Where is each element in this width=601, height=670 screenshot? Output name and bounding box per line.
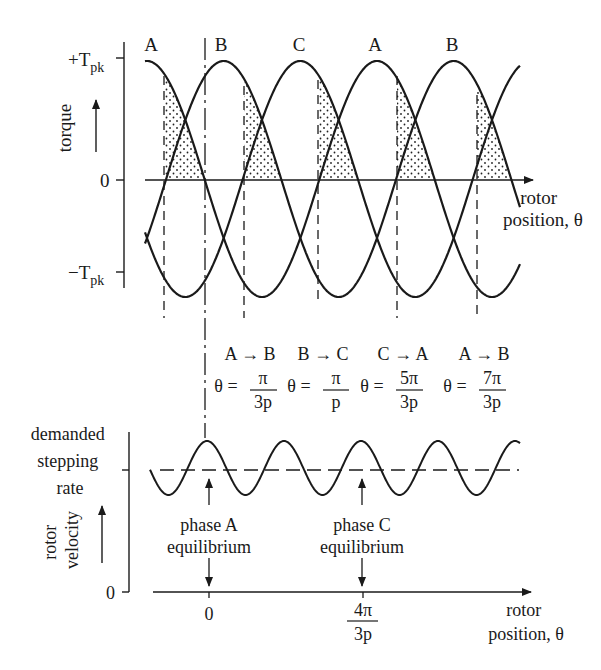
svg-text:θ =: θ = [443, 376, 466, 396]
rotor-position-label-bottom: rotor position, θ [488, 600, 564, 644]
svg-text:π: π [331, 368, 340, 388]
transition-labels: A → B B → C C → A A → B θ = π 3p θ = π p… [214, 344, 509, 412]
phase-label-c: C [293, 34, 306, 55]
stepper-torque-velocity-diagram: +Tpk 0 −Tpk torque rotor position, θ A B… [0, 0, 601, 670]
svg-text:3p: 3p [254, 392, 272, 412]
y-tick-plus-tpk: +Tpk [68, 49, 104, 75]
x-tick-zero: 0 [205, 604, 214, 624]
svg-text:θ =: θ = [287, 376, 310, 396]
theta-value-3: θ = 5π 3p [360, 368, 423, 412]
velocity-curve [150, 441, 520, 495]
rotor-velocity-label: rotor velocity [40, 511, 82, 569]
svg-text:equilibrium: equilibrium [320, 537, 404, 557]
svg-text:3p: 3p [400, 392, 418, 412]
phase-label-a2: A [368, 34, 382, 55]
phase-label-a: A [144, 34, 158, 55]
svg-text:π: π [258, 368, 267, 388]
svg-text:3p: 3p [354, 624, 372, 644]
theta-value-4: θ = 7π 3p [443, 368, 506, 412]
phase-c-equilibrium-annotation: phase C equilibrium [320, 479, 404, 586]
theta-value-1: θ = π 3p [214, 368, 277, 412]
demanded-stepping-rate-label: demanded stepping rate [31, 424, 109, 498]
svg-text:p: p [332, 392, 341, 412]
svg-text:θ =: θ = [214, 376, 237, 396]
svg-text:7π: 7π [483, 368, 501, 388]
velocity-plot: demanded stepping rate rotor velocity 0 … [31, 424, 564, 644]
transition-a-b-2: A → B [458, 344, 509, 364]
svg-text:phase A: phase A [180, 515, 238, 535]
torque-plot: +Tpk 0 −Tpk torque rotor position, θ A B… [54, 34, 583, 438]
svg-text:phase C: phase C [333, 515, 391, 535]
y-tick-zero: 0 [100, 170, 110, 191]
phase-label-b: B [215, 34, 228, 55]
y-tick-minus-tpk: −Tpk [68, 262, 104, 288]
theta-value-2: θ = π p [287, 368, 349, 412]
svg-text:3p: 3p [483, 392, 501, 412]
svg-text:θ =: θ = [360, 376, 383, 396]
velocity-y-zero: 0 [106, 583, 115, 603]
transition-b-c: B → C [297, 344, 348, 364]
svg-text:equilibrium: equilibrium [167, 537, 251, 557]
phase-a-equilibrium-annotation: phase A equilibrium [167, 479, 251, 586]
transition-a-b: A → B [224, 344, 275, 364]
svg-text:4π: 4π [354, 600, 372, 620]
x-tick-4pi-3p: 4π 3p [347, 600, 378, 644]
transition-c-a: C → A [377, 344, 428, 364]
phase-label-b2: B [446, 34, 459, 55]
svg-text:5π: 5π [400, 368, 418, 388]
torque-axis-label: torque [54, 104, 75, 153]
